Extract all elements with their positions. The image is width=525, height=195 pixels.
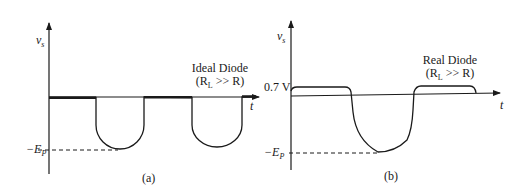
panel-a-y-axis-label: vs bbox=[36, 34, 44, 51]
panel-b-forward-voltage-label: 0.7 V bbox=[264, 81, 290, 94]
panel-a-neg-peak-label: −EP bbox=[26, 143, 46, 160]
panel-a-t-axis-label: t bbox=[250, 100, 253, 113]
panel-b-neg-peak-label: −EP bbox=[264, 146, 284, 163]
panel-b-y-axis-label: vs bbox=[277, 30, 285, 47]
panel-b-graph bbox=[289, 21, 500, 170]
panel-b-t-axis-label: t bbox=[500, 99, 503, 112]
panel-b-t-axis bbox=[291, 93, 500, 96]
diagram-canvas bbox=[0, 0, 525, 195]
panel-b-caption: (b) bbox=[384, 170, 398, 183]
panel-a-caption: (a) bbox=[142, 172, 155, 185]
panel-a-title: Ideal Diode (RL >> R) bbox=[180, 62, 260, 92]
panel-a-waveform bbox=[49, 97, 255, 150]
panel-b-title: Real Diode (RL >> R) bbox=[410, 54, 490, 84]
panel-a-graph bbox=[38, 23, 259, 174]
